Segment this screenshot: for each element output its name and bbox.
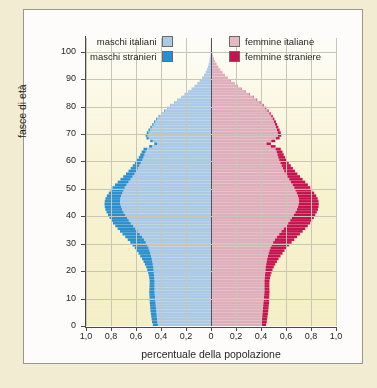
grid-line-horizontal xyxy=(86,107,336,108)
grid-line-vertical xyxy=(186,38,187,326)
grid-line-horizontal xyxy=(86,244,336,245)
grid-line-horizontal xyxy=(86,216,336,217)
x-axis-tick-label: 0,4 xyxy=(248,332,274,341)
x-axis-tick-label: 0,6 xyxy=(123,332,149,341)
plot-area xyxy=(86,38,336,326)
legend-item-maschi-italiani: maschi italiani xyxy=(90,34,173,49)
legend-swatch-female-foreign xyxy=(229,51,240,62)
legend-item-femmine-italiane: femmine italiane xyxy=(229,34,321,49)
legend-label: femmine italiane xyxy=(245,36,314,47)
x-axis-tick-label: 0,6 xyxy=(273,332,299,341)
grid-line-horizontal xyxy=(86,271,336,272)
grid-line-vertical xyxy=(136,38,137,326)
x-axis-tick-label: 0,2 xyxy=(173,332,199,341)
y-axis-tick xyxy=(81,52,86,53)
legend-item-femmine-straniere: femmine straniere xyxy=(229,49,321,64)
y-axis-tick-label: 40 xyxy=(52,211,76,220)
legend-item-maschi-stranieri: maschi stranieri xyxy=(90,49,173,64)
grid-line-vertical xyxy=(286,38,287,326)
grid-line-vertical xyxy=(261,38,262,326)
legend-swatch-female-native xyxy=(229,36,240,47)
y-axis-tick-label: 90 xyxy=(52,74,76,83)
legend-label: maschi stranieri xyxy=(90,51,157,62)
grid-line-horizontal xyxy=(86,79,336,80)
x-axis-tick-label: 0 xyxy=(198,332,224,341)
grid-line-horizontal xyxy=(86,134,336,135)
x-axis-tick-label: 1,0 xyxy=(323,332,349,341)
center-axis-line xyxy=(211,38,212,326)
grid-line-horizontal xyxy=(86,161,336,162)
y-axis-tick-label: 60 xyxy=(52,156,76,165)
chart-card: 0102030405060708090100 1,00,80,60,40,200… xyxy=(23,9,363,364)
y-axis-tick xyxy=(81,244,86,245)
x-axis-tick-label: 0,2 xyxy=(223,332,249,341)
legend-swatch-male-foreign xyxy=(162,51,173,62)
grid-line-vertical xyxy=(111,38,112,326)
y-axis-tick xyxy=(81,79,86,80)
x-axis-tick-label: 1,0 xyxy=(73,332,99,341)
x-axis-title: percentuale della popolazione xyxy=(86,348,336,360)
y-axis-tick xyxy=(81,189,86,190)
y-axis-tick xyxy=(81,107,86,108)
legend-label: maschi italiani xyxy=(97,36,157,47)
legend-male: maschi italiani maschi stranieri xyxy=(90,34,173,64)
grid-line-vertical xyxy=(336,38,337,326)
grid-line-vertical xyxy=(86,38,87,326)
x-axis-tick-label: 0,4 xyxy=(148,332,174,341)
y-axis-tick-label: 10 xyxy=(52,294,76,303)
legend-swatch-male-native xyxy=(162,36,173,47)
y-axis-tick-label: 70 xyxy=(52,129,76,138)
y-axis-tick-label: 0 xyxy=(52,321,76,330)
grid-line-horizontal xyxy=(86,189,336,190)
y-axis-tick xyxy=(81,216,86,217)
legend-female: femmine italiane femmine straniere xyxy=(229,34,321,64)
y-axis-tick-label: 80 xyxy=(52,102,76,111)
y-axis-tick-label: 100 xyxy=(52,47,76,56)
grid-line-vertical xyxy=(311,38,312,326)
y-axis-tick xyxy=(81,134,86,135)
grid-line-horizontal xyxy=(86,299,336,300)
grid-line-vertical xyxy=(161,38,162,326)
y-axis-tick xyxy=(81,299,86,300)
x-axis-tick-label: 0,8 xyxy=(298,332,324,341)
pyramid-chart-figure: 0102030405060708090100 1,00,80,60,40,200… xyxy=(0,0,377,388)
grid-line-vertical xyxy=(236,38,237,326)
y-axis-tick-label: 50 xyxy=(52,184,76,193)
y-axis-title: fasce di età xyxy=(16,84,28,138)
legend-label: femmine straniere xyxy=(245,51,321,62)
y-axis-tick xyxy=(81,161,86,162)
y-axis-tick-label: 20 xyxy=(52,266,76,275)
y-axis-tick xyxy=(81,271,86,272)
x-axis-tick-label: 0,8 xyxy=(98,332,124,341)
y-axis-tick-label: 30 xyxy=(52,239,76,248)
